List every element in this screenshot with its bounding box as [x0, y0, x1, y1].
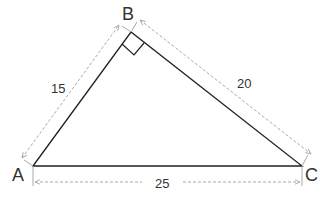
triangle-diagram: A B C 15 20 25 — [0, 0, 328, 201]
dimension-ab — [22, 25, 131, 166]
vertex-label-c: C — [305, 165, 318, 185]
vertex-label-b: B — [122, 4, 134, 24]
side-label-ab: 15 — [51, 81, 65, 96]
dimension-bc — [131, 20, 311, 166]
vertex-label-a: A — [12, 165, 24, 185]
triangle — [33, 32, 302, 166]
right-angle-marker — [122, 43, 144, 55]
side-label-bc: 20 — [237, 76, 251, 91]
side-label-ac: 25 — [155, 176, 169, 191]
